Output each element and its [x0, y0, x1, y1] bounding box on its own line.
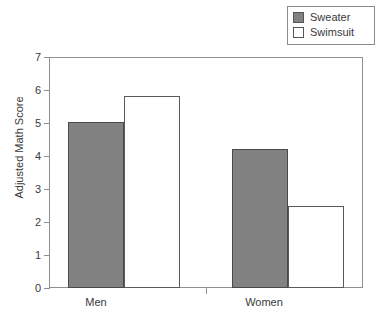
y-tick-label-7: 7 — [11, 52, 41, 63]
y-tick-mark — [44, 288, 50, 289]
y-tick-label-5: 5 — [11, 118, 41, 129]
y-tick-label-6: 6 — [11, 85, 41, 96]
legend-label-swimsuit: Swimsuit — [310, 27, 354, 38]
y-tick-label-4: 4 — [11, 151, 41, 162]
y-tick-label-2: 2 — [11, 217, 41, 228]
y-tick-label-0: 0 — [11, 283, 41, 294]
x-tick-label-men: Men — [51, 296, 141, 308]
y-axis-title: Adjusted Math Score — [14, 68, 25, 228]
legend-label-sweater: Sweater — [310, 12, 350, 23]
bar-women-swimsuit — [288, 206, 344, 289]
legend-item-swimsuit: Swimsuit — [293, 25, 369, 40]
x-tick-mark-separator — [206, 288, 207, 294]
y-tick-label-1: 1 — [11, 250, 41, 261]
x-tick-label-women: Women — [219, 296, 309, 308]
chart-legend: Sweater Swimsuit — [287, 6, 375, 45]
y-tick-label-3: 3 — [11, 184, 41, 195]
legend-item-sweater: Sweater — [293, 10, 369, 25]
bar-men-swimsuit — [124, 96, 180, 288]
bar-chart-figure: Sweater Swimsuit 7 6 5 4 3 2 1 0 Adjuste… — [0, 0, 384, 320]
bars-layer — [49, 57, 363, 288]
legend-swatch-swimsuit — [293, 27, 304, 38]
bar-men-sweater — [68, 122, 124, 288]
bar-women-sweater — [232, 149, 288, 288]
legend-swatch-sweater — [293, 12, 304, 23]
